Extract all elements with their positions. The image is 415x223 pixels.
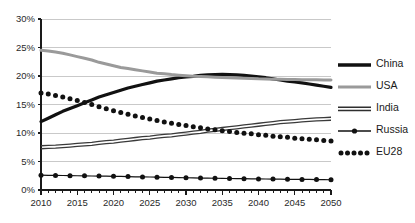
svg-text:2025: 2025 xyxy=(139,197,160,208)
series-china xyxy=(41,74,331,121)
svg-text:30%: 30% xyxy=(16,13,36,24)
svg-text:15%: 15% xyxy=(16,99,36,110)
legend-swatch-russia xyxy=(338,123,371,135)
svg-text:0%: 0% xyxy=(21,184,35,195)
legend-label-usa: USA xyxy=(376,79,398,91)
legend-label-china: China xyxy=(376,57,403,69)
legend-item-eu28: EU28 xyxy=(338,144,415,157)
legend-item-usa: USA xyxy=(338,78,415,91)
chart-legend: China USA India Russi xyxy=(338,56,415,157)
legend-label-russia: Russia xyxy=(376,123,408,135)
legend-item-russia: Russia xyxy=(338,122,415,135)
svg-text:10%: 10% xyxy=(16,127,36,138)
svg-text:2020: 2020 xyxy=(103,197,124,208)
gridlines xyxy=(41,19,331,162)
svg-text:2040: 2040 xyxy=(248,197,269,208)
y-axis-tick-labels: 0%5%10%15%20%25%30% xyxy=(16,13,36,195)
svg-text:2035: 2035 xyxy=(212,197,233,208)
x-axis xyxy=(41,190,331,195)
legend-swatch-usa xyxy=(338,79,371,91)
y-axis xyxy=(38,19,42,190)
legend-swatch-china xyxy=(338,57,371,69)
data-series-group xyxy=(39,50,334,182)
svg-text:2050: 2050 xyxy=(320,197,341,208)
svg-text:2045: 2045 xyxy=(284,197,305,208)
legend-swatch-eu28 xyxy=(338,145,371,157)
svg-text:2015: 2015 xyxy=(67,197,88,208)
svg-text:5%: 5% xyxy=(21,156,35,167)
chart-figure: 0%5%10%15%20%25%30% 20102015202020252030… xyxy=(0,0,415,223)
svg-text:20%: 20% xyxy=(16,70,36,81)
legend-swatch-india xyxy=(338,101,371,113)
legend-item-china: China xyxy=(338,56,415,69)
svg-text:2010: 2010 xyxy=(30,197,51,208)
legend-item-india: India xyxy=(338,100,415,113)
svg-text:25%: 25% xyxy=(16,42,36,53)
legend-label-eu28: EU28 xyxy=(376,145,402,157)
svg-text:2030: 2030 xyxy=(175,197,196,208)
legend-label-india: India xyxy=(376,101,399,113)
x-axis-tick-labels: 201020152020202520302035204020452050 xyxy=(30,197,341,208)
series-russia xyxy=(39,173,334,183)
